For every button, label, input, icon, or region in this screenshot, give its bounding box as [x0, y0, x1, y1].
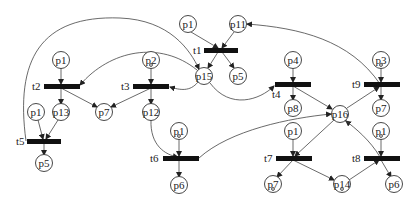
place-p1[interactable]: p1: [28, 104, 45, 121]
petri-net-diagram: t1 t2 t3 t4 t5 t6 t7 t8 t9 p1p11p5p15p1p…: [0, 0, 418, 207]
place-label: p15: [196, 70, 213, 82]
transition-label: t3: [121, 80, 130, 92]
place-p11[interactable]: p11: [230, 16, 247, 33]
place-p1[interactable]: p1: [180, 16, 197, 33]
token-icon: [341, 188, 344, 191]
token-icon: [178, 135, 181, 138]
place-label: p4: [288, 54, 300, 66]
place-p8[interactable]: p8: [285, 100, 302, 117]
place-p2[interactable]: p2: [143, 52, 160, 69]
place-label: p16: [332, 108, 349, 120]
transition-label: t8: [352, 152, 361, 164]
place-p1[interactable]: p1: [373, 123, 390, 140]
place-label: p6: [174, 179, 186, 191]
transition-t5[interactable]: t5: [16, 135, 61, 147]
transition-t9[interactable]: t9: [352, 78, 400, 90]
place-p12[interactable]: p12: [143, 104, 160, 121]
place-label: p11: [230, 18, 246, 30]
place-label: p12: [143, 106, 160, 118]
place-p5[interactable]: p5: [230, 68, 247, 85]
place-p7[interactable]: p7: [265, 176, 282, 193]
transition-t3[interactable]: t3: [121, 80, 169, 92]
place-label: p6: [389, 178, 401, 190]
place-label: p1: [288, 125, 299, 137]
token-icon: [380, 64, 383, 67]
place-label: p13: [53, 106, 70, 118]
place-label: p8: [288, 102, 300, 114]
place-p7[interactable]: p7: [96, 104, 113, 121]
place-p1[interactable]: p1: [171, 123, 188, 140]
place-label: p1: [31, 106, 42, 118]
place-label: p5: [233, 70, 245, 82]
place-p13[interactable]: p13: [53, 104, 70, 121]
transitions: t1 t2 t3 t4 t5 t6 t7 t8 t9: [16, 44, 400, 164]
place-p5[interactable]: p5: [36, 155, 53, 172]
place-p1[interactable]: p1: [285, 123, 302, 140]
transition-t2[interactable]: t2: [32, 80, 80, 92]
transition-label: t2: [32, 80, 41, 92]
place-label: p7: [376, 102, 388, 114]
transition-label: t6: [150, 152, 159, 164]
arcs: [24, 18, 391, 180]
place-p14[interactable]: p14: [334, 176, 351, 193]
petri-net-canvas: t1 t2 t3 t4 t5 t6 t7 t8 t9 p1p11p5p15p1p…: [0, 0, 418, 207]
place-p6[interactable]: p6: [386, 176, 403, 193]
place-label: p1: [56, 54, 67, 66]
token-icon: [380, 135, 383, 138]
place-p7[interactable]: p7: [373, 100, 390, 117]
transition-t4[interactable]: t4: [272, 82, 311, 100]
transition-label: t4: [272, 88, 281, 100]
place-p15[interactable]: p15: [196, 68, 213, 85]
transition-t1[interactable]: t1: [193, 44, 238, 56]
place-p16[interactable]: p16: [332, 106, 349, 123]
transition-label: t9: [352, 78, 361, 90]
place-p4[interactable]: p4: [285, 52, 302, 69]
place-label: p5: [39, 157, 51, 169]
place-label: p1: [183, 18, 194, 30]
transition-label: t1: [193, 44, 202, 56]
token-icon: [150, 64, 153, 67]
place-p1[interactable]: p1: [53, 52, 70, 69]
transition-label: t7: [264, 152, 273, 164]
transition-t6[interactable]: t6: [150, 152, 199, 164]
transition-t7[interactable]: t7: [264, 152, 312, 164]
place-label: p7: [99, 106, 111, 118]
places: p1p11p5p15p1p13p7p2p12p1p5p1p6p4p8p16p3p…: [28, 16, 403, 194]
token-icon: [272, 188, 275, 191]
place-p6[interactable]: p6: [171, 177, 188, 194]
place-p3[interactable]: p3: [373, 52, 390, 69]
transition-label: t5: [16, 135, 25, 147]
